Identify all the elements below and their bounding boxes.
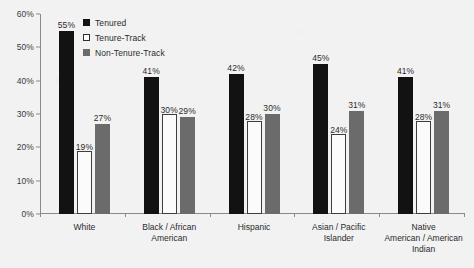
legend-item: Non-Tenure-Track <box>83 45 165 60</box>
bar-value-label: 30% <box>263 103 280 113</box>
legend-item: Tenured <box>83 15 165 30</box>
bar-value-label: 19% <box>76 142 93 152</box>
x-axis-tick-mark <box>210 213 211 217</box>
x-axis-tick-mark <box>40 213 41 217</box>
bar-value-label: 41% <box>397 66 414 76</box>
x-axis-tick-mark <box>125 213 126 217</box>
bar-value-label: 28% <box>415 112 432 122</box>
bar-value-label: 31% <box>433 100 450 110</box>
bar-value-label: 28% <box>245 112 262 122</box>
bar-tenured-4 <box>398 77 413 214</box>
bar-non-tenure-track-1 <box>180 117 195 214</box>
bar-tenured-3 <box>313 64 328 214</box>
x-axis-tick-mark <box>294 213 295 217</box>
bar-non-tenure-track-2 <box>265 114 280 214</box>
legend-item: Tenure-Track <box>83 30 165 45</box>
filled-black-square-icon <box>83 19 90 26</box>
chart-legend: TenuredTenure-TrackNon-Tenure-Track <box>83 15 165 60</box>
x-axis-tick-mark <box>379 213 380 217</box>
filled-gray-square-icon <box>83 49 90 56</box>
y-axis-tick-mark <box>36 14 40 15</box>
bar-value-label: 30% <box>161 105 178 115</box>
bar-value-label: 42% <box>227 63 244 73</box>
grouped-bar-chart: 0%10%20%30%40%50%60%55%19%27%41%30%29%42… <box>0 0 474 268</box>
bar-tenured-2 <box>229 74 244 214</box>
bar-tenure-track-3 <box>331 134 346 214</box>
bar-value-label: 24% <box>330 125 347 135</box>
bar-tenure-track-0 <box>77 151 92 214</box>
legend-item-label: Tenure-Track <box>95 33 146 43</box>
y-axis-tick-mark <box>36 147 40 148</box>
x-axis-category-label: Native American / American Indian <box>369 222 474 255</box>
y-axis-tick-mark <box>36 180 40 181</box>
bar-value-label: 45% <box>312 53 329 63</box>
bar-tenure-track-2 <box>247 121 262 214</box>
bar-tenure-track-1 <box>162 114 177 214</box>
bar-value-label: 55% <box>58 20 75 30</box>
bar-value-label: 41% <box>143 66 160 76</box>
legend-item-label: Tenured <box>95 18 126 28</box>
bar-tenured-1 <box>144 77 159 214</box>
bar-non-tenure-track-0 <box>95 124 110 214</box>
y-axis-tick-mark <box>36 80 40 81</box>
y-axis-tick-mark <box>36 47 40 48</box>
legend-item-label: Non-Tenure-Track <box>95 48 165 58</box>
bar-non-tenure-track-4 <box>434 111 449 214</box>
y-axis-tick-mark <box>36 114 40 115</box>
bar-value-label: 27% <box>94 113 111 123</box>
bar-non-tenure-track-3 <box>349 111 364 214</box>
bar-value-label: 29% <box>179 106 196 116</box>
x-axis-tick-mark <box>464 213 465 217</box>
bar-tenured-0 <box>59 31 74 214</box>
bar-tenure-track-4 <box>416 121 431 214</box>
outlined-white-square-icon <box>83 34 90 41</box>
bar-value-label: 31% <box>348 100 365 110</box>
